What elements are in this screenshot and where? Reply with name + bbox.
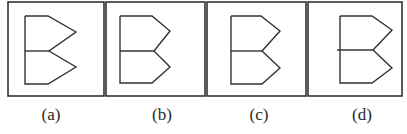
option-a-label: (a) xyxy=(42,105,61,124)
option-c[interactable]: (c) xyxy=(207,2,306,124)
answer-options-figure: (a) (b) (c) (d) xyxy=(0,0,407,134)
option-b[interactable]: (b) xyxy=(106,2,205,124)
option-a-b-shape-outline xyxy=(25,16,76,84)
option-b-b-shape-outline xyxy=(120,16,170,83)
option-a-frame xyxy=(8,2,104,96)
option-b-label: (b) xyxy=(152,105,172,124)
option-d-label: (d) xyxy=(352,105,372,124)
option-d[interactable]: (d) xyxy=(308,2,402,124)
option-a[interactable]: (a) xyxy=(8,2,104,124)
option-c-b-shape-outline xyxy=(231,16,280,84)
option-c-label: (c) xyxy=(250,105,269,124)
